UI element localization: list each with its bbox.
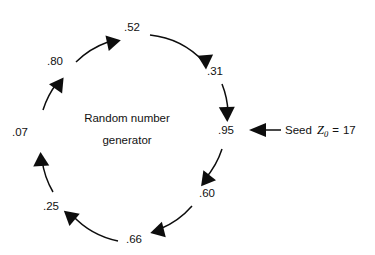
node-label-07: .07 bbox=[12, 126, 28, 138]
arc-07-to-80 bbox=[43, 73, 70, 110]
arc-path bbox=[72, 215, 118, 241]
seed-arrowhead-icon bbox=[249, 123, 266, 137]
arc-path bbox=[150, 35, 204, 62]
center-label-line2: generator bbox=[102, 134, 151, 146]
seed-equals: = bbox=[332, 124, 339, 136]
node-label-80: .80 bbox=[47, 55, 63, 67]
node-label-31: .31 bbox=[207, 65, 223, 77]
arc-31-to-95 bbox=[219, 84, 236, 122]
node-label-25: .25 bbox=[43, 200, 59, 212]
seed-variable-group: Z0=17 bbox=[317, 123, 356, 139]
arc-60-to-66 bbox=[148, 206, 192, 241]
seed-label: Seed bbox=[285, 124, 312, 136]
arc-80-to-52 bbox=[76, 33, 122, 62]
arc-25-to-07 bbox=[33, 152, 53, 192]
node-label-66: .66 bbox=[126, 233, 142, 245]
node-label-52: .52 bbox=[124, 21, 140, 33]
arc-95-to-60 bbox=[195, 149, 222, 191]
center-label-line1: Random number bbox=[84, 112, 170, 124]
arrowhead-icon bbox=[33, 152, 50, 167]
seed-annotation: Seed Z0=17 bbox=[249, 123, 356, 139]
seed-value: 17 bbox=[343, 124, 356, 136]
arrowhead-icon bbox=[105, 33, 122, 52]
seed-subscript: 0 bbox=[324, 129, 329, 139]
node-label-95: .95 bbox=[218, 124, 234, 136]
random-number-generator-diagram: .95 .60 .66 .25 .07 .80 .52 .31 Random n… bbox=[0, 0, 375, 255]
arrowhead-icon bbox=[219, 107, 236, 123]
arrowhead-icon bbox=[59, 205, 80, 226]
arrowhead-icon bbox=[148, 222, 165, 241]
arc-path bbox=[160, 206, 192, 229]
arc-66-to-25 bbox=[59, 205, 118, 241]
node-label-60: .60 bbox=[199, 187, 215, 199]
diagram-canvas: .95 .60 .66 .25 .07 .80 .52 .31 Random n… bbox=[0, 0, 375, 255]
arc-path bbox=[76, 42, 108, 62]
